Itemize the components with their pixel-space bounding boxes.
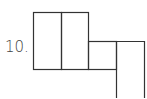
square-net-figure xyxy=(0,0,147,98)
square-right-open xyxy=(117,42,145,99)
square-top-middle xyxy=(62,13,89,70)
square-lower-middle xyxy=(89,42,117,70)
square-top-left xyxy=(34,13,62,70)
